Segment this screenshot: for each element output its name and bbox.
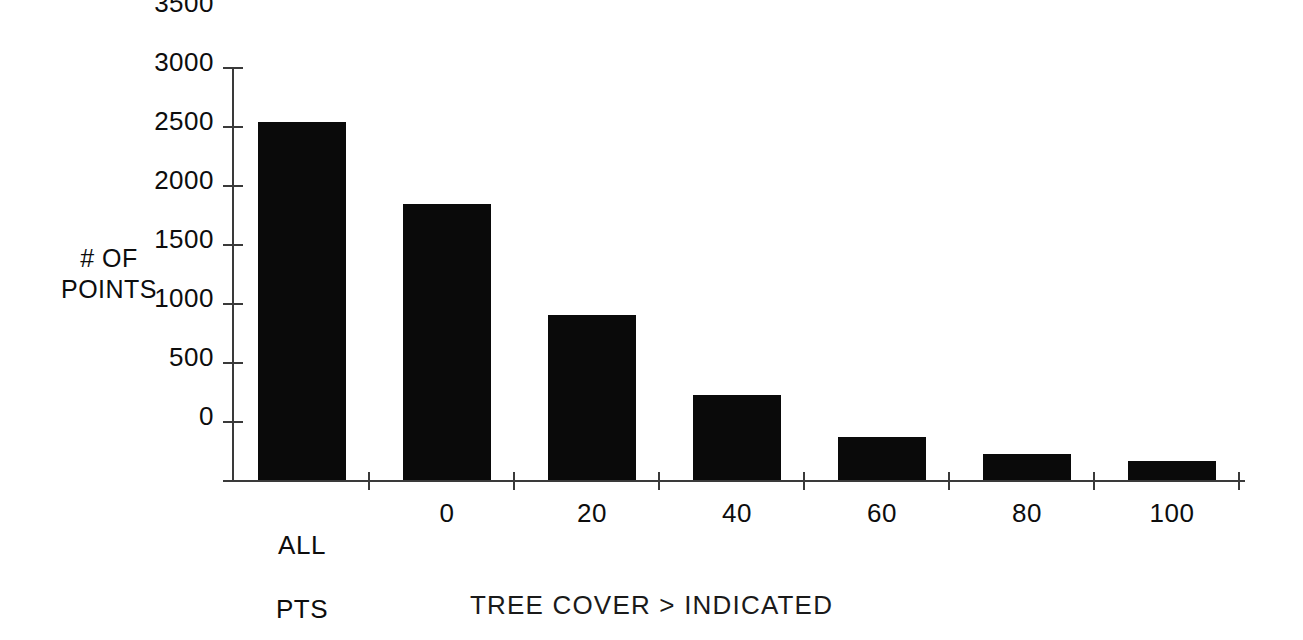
y-tick-mark-2500 — [223, 185, 243, 187]
x-axis-title: TREE COVER > INDICATED — [0, 590, 1303, 621]
y-tick-label-2000: 2000 — [104, 167, 214, 193]
bar-100 — [1128, 461, 1216, 480]
x-tick-label-100: 100 — [1128, 497, 1216, 529]
x-tick-label-40: 40 — [693, 497, 781, 529]
y-tick-label-1500: 1500 — [104, 226, 214, 252]
y-tick-label-0: 0 — [104, 403, 214, 429]
y-tick-mark-2000 — [223, 244, 243, 246]
y-tick-mark-3000 — [223, 126, 243, 128]
y-axis-line — [232, 67, 234, 481]
y-tick-mark-1000 — [223, 362, 243, 364]
x-tick-label-all-pts-line-1: ALL — [258, 529, 346, 561]
x-tick-mark-6 — [1093, 472, 1095, 490]
y-tick-mark-1500 — [223, 303, 243, 305]
x-tick-label-60: 60 — [838, 497, 926, 529]
x-tick-mark-5 — [948, 472, 950, 490]
bar-20 — [548, 315, 636, 480]
y-tick-label-2500: 2500 — [104, 108, 214, 134]
bar-0 — [403, 204, 491, 480]
x-tick-label-80: 80 — [983, 497, 1071, 529]
x-tick-mark-3 — [658, 472, 660, 490]
y-tick-mark-500 — [223, 421, 243, 423]
bar-chart-figure: # OF POINTS 0 500 1000 1500 2000 2500 30… — [0, 0, 1303, 640]
y-tick-label-1000: 1000 — [104, 285, 214, 311]
y-tick-label-500: 500 — [104, 344, 214, 370]
x-tick-mark-7 — [1238, 472, 1240, 490]
bar-all-pts — [258, 122, 346, 480]
y-tick-mark-3500 — [223, 67, 243, 69]
y-tick-label-3000: 3000 — [104, 49, 214, 75]
bar-60 — [838, 437, 926, 480]
bar-80 — [983, 454, 1071, 480]
x-tick-label-20: 20 — [548, 497, 636, 529]
bar-40 — [693, 395, 781, 480]
x-tick-mark-1 — [368, 472, 370, 490]
x-tick-mark-4 — [803, 472, 805, 490]
x-tick-mark-2 — [513, 472, 515, 490]
y-tick-label-3500: 3500 — [104, 0, 214, 16]
y-tick-mark-0 — [223, 480, 243, 482]
x-tick-label-0: 0 — [403, 497, 491, 529]
